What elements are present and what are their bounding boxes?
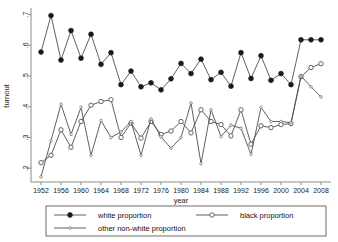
data-point bbox=[169, 129, 173, 133]
data-point bbox=[210, 109, 213, 112]
data-point bbox=[139, 136, 143, 140]
x-tick-label: 1964 bbox=[93, 187, 109, 194]
axes-layer: .2.3.4.5.6.7turnout195219561960196419681… bbox=[2, 8, 331, 205]
data-point bbox=[269, 125, 273, 129]
data-point bbox=[179, 119, 183, 123]
data-point bbox=[230, 124, 233, 127]
data-point bbox=[250, 153, 253, 156]
x-tick-label: 1956 bbox=[53, 187, 69, 194]
series-white-proportion bbox=[39, 13, 324, 92]
data-point bbox=[220, 135, 223, 138]
series-path bbox=[41, 16, 321, 90]
data-point bbox=[40, 175, 43, 178]
data-point bbox=[119, 82, 124, 87]
x-tick-label: 1996 bbox=[253, 187, 269, 194]
series-path bbox=[41, 76, 321, 177]
data-point bbox=[150, 118, 153, 121]
x-tick-label: 2000 bbox=[273, 187, 289, 194]
data-point bbox=[309, 37, 314, 42]
x-tick-label: 1976 bbox=[153, 187, 169, 194]
data-point bbox=[69, 227, 72, 230]
data-point bbox=[299, 37, 304, 42]
x-tick-label: 1960 bbox=[73, 187, 89, 194]
y-tick-label: .2 bbox=[22, 165, 29, 171]
data-point bbox=[270, 120, 273, 123]
legend-label: black proportion bbox=[240, 211, 293, 220]
data-point bbox=[90, 154, 93, 157]
data-point bbox=[319, 62, 323, 66]
y-tick-label: .3 bbox=[22, 134, 29, 140]
data-point bbox=[310, 85, 313, 88]
x-tick-label: 1972 bbox=[133, 187, 149, 194]
x-tick-label: 2008 bbox=[313, 187, 329, 194]
data-point bbox=[239, 50, 244, 55]
data-point bbox=[280, 120, 283, 123]
series-layer bbox=[39, 13, 324, 178]
chart-figure: .2.3.4.5.6.7turnout195219561960196419681… bbox=[0, 0, 338, 242]
data-point bbox=[159, 87, 164, 92]
data-point bbox=[89, 103, 93, 107]
data-point bbox=[79, 119, 83, 123]
data-point bbox=[60, 103, 63, 106]
data-point bbox=[199, 108, 203, 112]
data-point bbox=[70, 133, 73, 136]
series-path bbox=[41, 64, 321, 163]
data-point bbox=[50, 139, 53, 142]
data-point bbox=[110, 136, 113, 139]
data-point bbox=[160, 136, 163, 139]
data-point bbox=[240, 127, 243, 130]
data-point bbox=[79, 56, 84, 61]
y-axis-title-text: turnout bbox=[2, 83, 11, 107]
y-tick-label: .7 bbox=[22, 12, 29, 18]
data-point bbox=[169, 76, 174, 81]
data-point bbox=[219, 70, 224, 75]
y-tick-label: .5 bbox=[22, 73, 29, 79]
x-tick-label: 1992 bbox=[233, 187, 249, 194]
x-tick-label: 2004 bbox=[293, 187, 309, 194]
data-point bbox=[290, 121, 293, 124]
data-point bbox=[259, 124, 263, 128]
data-point bbox=[210, 213, 214, 217]
data-point bbox=[199, 57, 204, 62]
data-point bbox=[279, 71, 284, 76]
x-tick-label: 1980 bbox=[173, 187, 189, 194]
data-point bbox=[260, 106, 263, 109]
data-point bbox=[209, 77, 214, 82]
data-point bbox=[190, 102, 193, 105]
data-point bbox=[300, 75, 303, 78]
y-tick-label: .6 bbox=[22, 42, 29, 48]
data-point bbox=[149, 80, 154, 85]
data-point bbox=[189, 71, 194, 76]
data-point bbox=[170, 147, 173, 150]
data-point bbox=[219, 122, 223, 126]
data-point bbox=[49, 153, 53, 157]
data-point bbox=[319, 37, 324, 42]
data-point bbox=[320, 96, 323, 99]
data-point bbox=[139, 84, 144, 89]
legend-label: white proportion bbox=[97, 211, 151, 220]
data-point bbox=[229, 134, 233, 138]
data-point bbox=[269, 78, 274, 83]
data-point bbox=[129, 69, 134, 74]
turnout-by-race-line-chart: .2.3.4.5.6.7turnout195219561960196419681… bbox=[0, 0, 338, 242]
data-point bbox=[99, 99, 103, 103]
data-point bbox=[69, 28, 74, 33]
data-point bbox=[80, 106, 83, 109]
y-tick-label: .4 bbox=[22, 104, 29, 110]
series-black-proportion bbox=[39, 62, 323, 165]
data-point bbox=[140, 154, 143, 157]
data-point bbox=[99, 62, 104, 67]
data-point bbox=[59, 58, 64, 63]
data-point bbox=[120, 131, 123, 134]
data-point bbox=[249, 76, 254, 81]
x-tick-label: 1984 bbox=[193, 187, 209, 194]
data-point bbox=[69, 145, 73, 149]
data-point bbox=[180, 136, 183, 139]
data-point bbox=[179, 61, 184, 66]
x-tick-label: 1968 bbox=[113, 187, 129, 194]
legend-layer: white proportionblack proportionother no… bbox=[46, 206, 326, 236]
x-tick-label: 1988 bbox=[213, 187, 229, 194]
data-point bbox=[229, 84, 234, 89]
data-point bbox=[109, 97, 113, 101]
data-point bbox=[259, 53, 264, 58]
